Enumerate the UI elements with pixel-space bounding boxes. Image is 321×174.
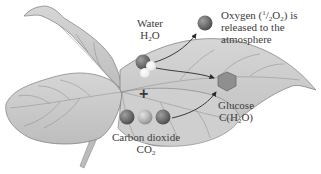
oxygen-line-1: Oxygen (1/2O2) is [221, 9, 298, 21]
co2-oxygen-atom-2 [156, 110, 171, 125]
photosynthesis-diagram: + Water H2O Oxygen (1/2O2) is released t… [0, 0, 321, 174]
oxygen-released-atom [198, 16, 213, 31]
co2-carbon-atom [138, 110, 153, 125]
glucose-name: Glucose [212, 99, 260, 111]
glucose-formula: C(H2O) [212, 111, 260, 123]
glucose-label: Glucose C(H2O) [212, 99, 260, 123]
water-formula: H2O [130, 29, 170, 41]
plus-sign: + [139, 86, 148, 102]
water-label: Water H2O [130, 17, 170, 41]
carbon-dioxide-formula: CO2 [105, 143, 187, 155]
oxygen-label: Oxygen (1/2O2) is released to the atmosp… [221, 9, 298, 45]
water-hydrogen-atom-2 [140, 68, 150, 78]
carbon-dioxide-name: Carbon dioxide [105, 131, 187, 143]
carbon-dioxide-label: Carbon dioxide CO2 [105, 131, 187, 155]
carbon-dioxide-molecule [120, 110, 171, 125]
oxygen-line-2: released to the [221, 21, 298, 33]
oxygen-line-3: atmosphere [221, 33, 298, 45]
co2-oxygen-atom-1 [120, 110, 135, 125]
water-name: Water [130, 17, 170, 29]
